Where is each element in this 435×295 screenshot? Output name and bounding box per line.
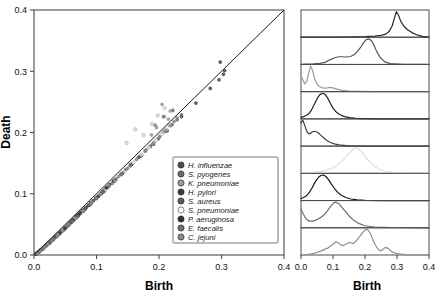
scatter-point: [168, 124, 172, 128]
x-tick-label: 0.4: [423, 262, 435, 272]
scatter-point: [156, 114, 160, 118]
scatter-point: [153, 123, 157, 127]
legend-label: S. aureus: [188, 197, 221, 206]
scatter-point: [98, 193, 102, 197]
scatter-point: [125, 141, 129, 145]
scatter-point: [82, 209, 86, 213]
scatter-point: [67, 223, 71, 227]
right-x-axis-title: Birth: [353, 279, 381, 293]
legend-label: K. pneumoniae: [188, 179, 239, 188]
x-tick-label: 0.1: [327, 262, 340, 272]
birth-death-figure: 0.00.10.20.30.4 0.00.10.20.30.4 Birth De…: [0, 0, 435, 295]
scatter-point: [217, 78, 221, 82]
x-tick-label: 0.2: [153, 262, 166, 272]
legend-marker-icon: [178, 189, 184, 195]
left-x-axis-title: Birth: [145, 279, 173, 293]
scatter-point: [180, 113, 184, 117]
scatter-point: [128, 163, 132, 167]
x-tick-label: 0.0: [295, 262, 308, 272]
x-tick-label: 0.1: [90, 262, 103, 272]
legend-label: H. influenzae: [188, 161, 232, 170]
scatter-point: [135, 158, 139, 162]
legend-label: H. pylori: [188, 188, 216, 197]
scatter-point: [133, 128, 137, 132]
scatter-point: [151, 142, 155, 146]
y-tick-label: 0.4: [14, 5, 27, 15]
y-tick-label: 0.2: [14, 128, 27, 138]
scatter-point: [167, 117, 171, 121]
scatter-point: [163, 106, 167, 110]
scatter-point: [168, 109, 172, 113]
scatter-point: [117, 175, 121, 179]
scatter-point: [222, 72, 226, 76]
legend-marker-icon: [178, 234, 184, 240]
scatter-point: [158, 135, 162, 139]
scatter-point: [126, 166, 130, 170]
x-tick-label: 0.3: [391, 262, 404, 272]
legend-label: P. aeruginosa: [188, 215, 234, 224]
scatter-point: [113, 178, 117, 182]
y-tick-label: 0.3: [14, 67, 27, 77]
scatter-point: [70, 219, 74, 223]
scatter-point: [94, 197, 98, 201]
scatter-point: [143, 149, 147, 153]
scatter-point: [107, 184, 111, 188]
legend-label: C. jejuni: [188, 233, 216, 242]
legend-marker-icon: [178, 216, 184, 222]
species-legend: H. influenzaeS. pyogenesK. pneumoniaeH. …: [173, 157, 278, 243]
x-tick-label: 0.4: [278, 262, 291, 272]
scatter-point: [150, 133, 154, 137]
scatter-point: [55, 234, 59, 238]
legend-item[interactable]: K. pneumoniae: [178, 179, 239, 188]
y-tick-label: 0.1: [14, 189, 27, 199]
figure-background: [0, 0, 435, 295]
legend-marker-icon: [178, 225, 184, 231]
scatter-point: [162, 115, 166, 119]
scatter-point: [163, 129, 167, 133]
scatter-point: [142, 133, 146, 137]
scatter-point: [218, 60, 222, 64]
scatter-point: [90, 201, 94, 205]
scatter-point: [132, 161, 136, 165]
scatter-point: [140, 153, 144, 157]
legend-label: S. pneumoniae: [188, 206, 239, 215]
legend-marker-icon: [178, 171, 184, 177]
left-y-axis-title: Death: [0, 115, 13, 148]
legend-item[interactable]: S. pneumoniae: [178, 206, 239, 215]
legend-marker-icon: [178, 180, 184, 186]
scatter-point: [208, 87, 212, 91]
legend-marker-icon: [178, 198, 184, 204]
legend-label: E. faecalis: [188, 224, 223, 233]
scatter-point: [154, 139, 158, 143]
legend-marker-icon: [178, 162, 184, 168]
scatter-point: [172, 120, 176, 124]
x-tick-label: 0.2: [359, 262, 372, 272]
scatter-point: [194, 101, 198, 105]
x-tick-label: 0.3: [215, 262, 228, 272]
scatter-point: [74, 216, 78, 220]
legend-marker-icon: [178, 207, 184, 213]
scatter-point: [61, 229, 65, 233]
y-tick-label: 0.0: [14, 250, 27, 260]
scatter-point: [160, 102, 164, 106]
scatter-point: [147, 145, 151, 149]
x-tick-label: 0.0: [28, 262, 41, 272]
legend-label: S. pyogenes: [188, 170, 230, 179]
